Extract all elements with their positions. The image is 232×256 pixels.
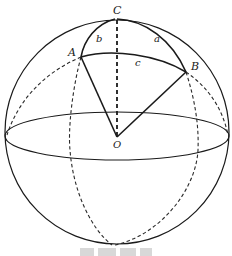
- sphere-diagram: C A B O b a c: [0, 0, 232, 256]
- label-b-point: B: [190, 60, 199, 73]
- caption-fragment: [80, 248, 94, 256]
- meridian-a-dashed: [69, 57, 112, 245]
- radius-ob: [117, 72, 186, 137]
- label-arc-c: c: [135, 57, 141, 68]
- label-arc-b: b: [96, 33, 102, 44]
- arc-c: [81, 53, 186, 72]
- label-c-point: C: [113, 4, 122, 17]
- arc-a: [117, 19, 186, 72]
- caption-fragment: [140, 248, 152, 256]
- arc-b-right-dashed: [186, 72, 228, 135]
- caption-fragment: [120, 248, 136, 256]
- caption-fragment: [98, 248, 116, 256]
- label-a-point: A: [67, 46, 76, 59]
- label-o-point: O: [113, 139, 121, 150]
- radius-oa: [81, 57, 117, 137]
- label-arc-a: a: [154, 33, 160, 44]
- figure-caption-truncated: [0, 248, 232, 256]
